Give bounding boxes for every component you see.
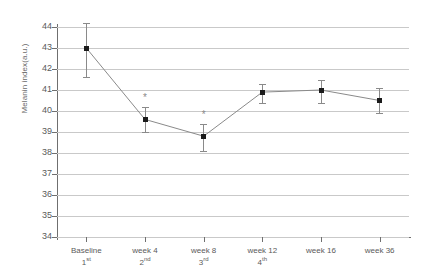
- significance-asterisk: *: [143, 93, 147, 103]
- error-bar-cap: [200, 151, 207, 152]
- data-point-marker: [319, 88, 324, 93]
- error-bar-cap: [200, 124, 207, 125]
- error-bar-cap: [259, 103, 266, 104]
- data-point-marker: [84, 46, 89, 51]
- error-bar-cap: [83, 77, 90, 78]
- series-line: [0, 0, 433, 276]
- error-bar-cap: [376, 113, 383, 114]
- data-point-marker: [201, 134, 206, 139]
- error-bar-cap: [83, 23, 90, 24]
- melanin-index-chart: Melanin index(a.u.) 44434241403938373635…: [0, 0, 433, 276]
- error-bar-cap: [142, 132, 149, 133]
- error-bar-cap: [318, 103, 325, 104]
- data-point-marker: [143, 117, 148, 122]
- data-point-marker: [260, 90, 265, 95]
- error-bar-cap: [318, 80, 325, 81]
- data-point-marker: [377, 98, 382, 103]
- significance-asterisk: *: [202, 110, 206, 120]
- error-bar-cap: [142, 107, 149, 108]
- error-bar-cap: [376, 88, 383, 89]
- error-bar-cap: [259, 84, 266, 85]
